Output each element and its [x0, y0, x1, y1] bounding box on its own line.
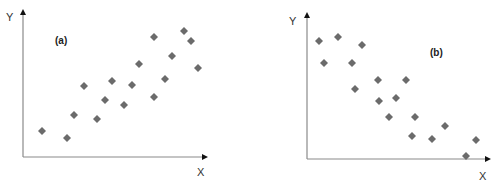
x-axis-arrow-icon — [202, 154, 208, 160]
data-point-marker — [128, 81, 136, 89]
y-axis-label: Y — [289, 15, 297, 27]
data-point-marker — [375, 97, 383, 105]
data-point-marker — [428, 135, 436, 143]
x-axis-label: X — [479, 170, 487, 182]
data-point-marker — [101, 96, 109, 104]
x-axis-label: X — [197, 166, 205, 178]
data-point-marker — [135, 60, 143, 68]
data-point-marker — [150, 93, 158, 101]
data-point-marker — [168, 52, 176, 60]
scatter-figure: Y X (a) Y X (b) — [0, 0, 499, 185]
data-point-marker — [411, 113, 419, 121]
panel-label: (b) — [430, 47, 443, 58]
data-point-marker — [150, 33, 158, 41]
data-point-marker — [385, 113, 393, 121]
scatter-plot-b: Y X (b) — [289, 12, 491, 182]
data-point-marker — [348, 59, 356, 67]
data-point-marker — [180, 27, 188, 35]
data-point-marker — [194, 64, 202, 72]
data-points — [315, 33, 480, 160]
data-point-marker — [472, 136, 480, 144]
data-point-marker — [351, 85, 359, 93]
data-point-marker — [334, 33, 342, 41]
data-point-marker — [441, 122, 449, 130]
scatter-plot-a: Y X (a) — [6, 9, 208, 178]
data-point-marker — [120, 101, 128, 109]
y-axis-arrow-icon — [20, 9, 26, 15]
data-point-marker — [408, 132, 416, 140]
data-point-marker — [93, 115, 101, 123]
data-point-marker — [63, 134, 71, 142]
y-axis-arrow-icon — [304, 12, 310, 18]
data-point-marker — [38, 127, 46, 135]
panel-label: (a) — [55, 35, 67, 46]
data-point-marker — [392, 94, 400, 102]
data-point-marker — [108, 77, 116, 85]
data-point-marker — [70, 111, 78, 119]
data-point-marker — [315, 37, 323, 45]
data-point-marker — [161, 75, 169, 83]
data-point-marker — [402, 76, 410, 84]
data-point-marker — [80, 82, 88, 90]
data-point-marker — [187, 37, 195, 45]
data-point-marker — [358, 41, 366, 49]
y-axis-label: Y — [6, 11, 14, 23]
x-axis-arrow-icon — [485, 156, 491, 162]
data-point-marker — [320, 59, 328, 67]
data-point-marker — [374, 76, 382, 84]
